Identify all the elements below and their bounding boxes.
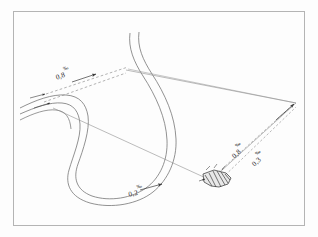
hydraulic-structure-icon (199, 164, 231, 187)
sight-line-middle (53, 108, 208, 179)
sight-line-lower-right (210, 103, 296, 181)
label-upper-left-value: 0,8 (55, 71, 67, 82)
sight-line-apex-return (128, 69, 296, 103)
label-lower-loop-unit: ‰ (136, 182, 143, 189)
gradient-arrow-upper (72, 74, 96, 82)
gradient-arrow-left-bank (30, 94, 45, 98)
plan-drawing (0, 0, 318, 237)
gradient-arrow-apex (276, 104, 294, 120)
gradient-arrow-left-bank-2 (34, 103, 50, 108)
figure-frame (14, 12, 305, 226)
label-gradient-lower-loop: 0,2‰ (126, 181, 144, 200)
channel-bank-outer (20, 33, 167, 199)
label-lower-loop-value: 0,2 (128, 189, 139, 199)
channel-bank-inner (20, 32, 176, 206)
engineering-plan-figure: 0,8‰ 0,2‰ 0,8‰ 0,3‰ (0, 0, 318, 237)
